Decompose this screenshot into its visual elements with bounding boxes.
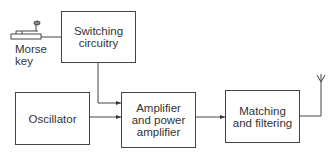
morse-key-icon: [11, 21, 61, 39]
matching-line2: and filtering: [233, 117, 292, 129]
oscillator-label: Oscillator: [29, 113, 77, 125]
morse-key-label-line1: Morse: [15, 43, 47, 55]
matching-to-antenna-line: [300, 82, 321, 116]
amplifier-line2: and power: [132, 114, 186, 126]
switching-line2: circuitry: [74, 37, 123, 49]
amplifier-block: Amplifier and power amplifier: [121, 92, 196, 148]
matching-filtering-block: Matching and filtering: [225, 90, 300, 143]
switching-line1: Switching: [74, 25, 123, 37]
morse-key-label-line2: key: [15, 55, 47, 67]
amplifier-line1: Amplifier: [132, 102, 186, 114]
switching-circuitry-block: Switching circuitry: [61, 11, 136, 63]
morse-key-label: Morse key: [15, 43, 47, 67]
switching-to-amplifier-arrow: [98, 63, 121, 103]
antenna-icon: [317, 74, 325, 82]
amplifier-line3: amplifier: [132, 126, 186, 138]
oscillator-block: Oscillator: [15, 92, 90, 145]
matching-line1: Matching: [233, 105, 292, 117]
